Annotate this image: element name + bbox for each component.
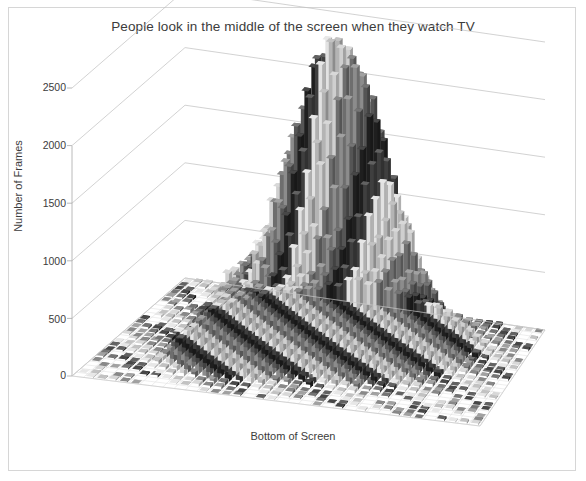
plot-area (0, 0, 586, 481)
chart-page: People look in the middle of the screen … (0, 0, 586, 481)
